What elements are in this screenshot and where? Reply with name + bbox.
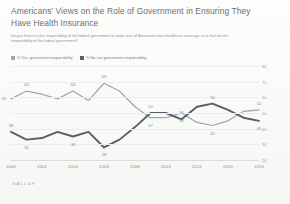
data-point-label: 64 <box>71 82 76 87</box>
x-axis-tick-label: 2012 <box>192 164 202 169</box>
data-point-label: 59 <box>2 95 7 100</box>
legend-label-no: % No, not government responsibility <box>86 56 147 60</box>
gridline <box>11 129 259 130</box>
x-axis-tick-label: 2008 <box>130 164 140 169</box>
x-axis-tick-label: 2014 <box>223 164 233 169</box>
legend-label-yes: % Yes, government responsibility <box>17 56 73 60</box>
y-axis-tick-label: 80 <box>262 64 266 69</box>
gridline <box>11 66 259 67</box>
y-axis-tick-label: 20 <box>262 158 266 163</box>
data-point-label: 34 <box>71 141 76 146</box>
series-line <box>11 104 259 148</box>
data-point-label: 47 <box>148 122 153 127</box>
gridline <box>11 97 259 98</box>
x-axis-line <box>11 160 259 161</box>
data-point-label: 42 <box>210 130 215 135</box>
y-axis-tick-label: 70 <box>262 79 266 84</box>
data-point-label: 31 <box>24 144 29 149</box>
chart-legend: % Yes, government responsibility % No, n… <box>11 56 147 60</box>
legend-item-no[interactable]: % No, not government responsibility <box>80 56 147 60</box>
x-axis-tick-label: 2002 <box>37 164 47 169</box>
data-point-label: 50 <box>179 110 184 115</box>
x-axis-tick-label: 2004 <box>68 164 78 169</box>
y-axis-tick-label: 50 <box>262 111 266 116</box>
x-axis-tick-label: 2000 <box>6 164 16 169</box>
legend-swatch-no <box>80 56 84 60</box>
x-axis-tick-label: 2016 <box>254 164 264 169</box>
data-point-label: 64 <box>24 82 29 87</box>
data-point-label: 48 <box>179 118 184 123</box>
series-line <box>11 83 259 125</box>
chart-card: Americans' Views on the Role of Governme… <box>0 0 290 204</box>
data-point-label: 28 <box>102 152 107 157</box>
y-axis-tick-label: 40 <box>262 126 266 131</box>
data-point-label: 56 <box>210 94 215 99</box>
y-axis-tick-label: 30 <box>262 142 266 147</box>
gridline <box>11 144 259 145</box>
data-point-label: 45 <box>257 125 262 130</box>
legend-item-yes[interactable]: % Yes, government responsibility <box>11 56 73 60</box>
y-axis-tick-label: 60 <box>262 95 266 100</box>
gridline <box>11 113 259 114</box>
x-axis-tick-label: 2010 <box>161 164 171 169</box>
data-point-label: 50 <box>148 104 153 109</box>
data-point-label: 38 <box>9 122 14 127</box>
x-axis-tick-label: 2006 <box>99 164 109 169</box>
source-watermark: GALLUP <box>12 181 36 186</box>
data-point-label: 69 <box>102 74 107 79</box>
data-point-label: 52 <box>257 100 262 105</box>
page-title: Americans' Views on the Role of Governme… <box>11 6 261 29</box>
chart-plot-area: 59646469474842523831342850505645 <box>11 66 259 160</box>
gridline <box>11 82 259 83</box>
chart-question-subtitle: Do you think it is the responsibility of… <box>11 34 243 45</box>
legend-swatch-yes <box>11 56 15 60</box>
